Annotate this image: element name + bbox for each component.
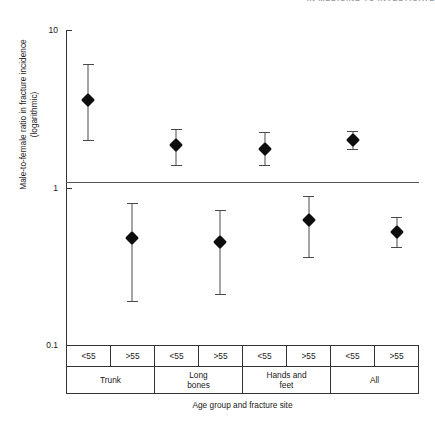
error-bar-line — [220, 210, 221, 294]
category-age-row: <55>55 — [67, 346, 154, 367]
category-age-label: >55 — [375, 346, 418, 366]
error-bar-lower-cap — [391, 247, 402, 248]
category-group: <55>55Longbones — [155, 346, 243, 393]
category-group: <55>55All — [331, 346, 418, 393]
category-age-label: >55 — [111, 346, 154, 366]
category-axis-table: <55>55Trunk<55>55Longbones<55>55Hands an… — [66, 345, 419, 394]
category-age-label: <55 — [243, 346, 287, 366]
error-bar-lower-cap — [127, 301, 138, 302]
running-head-text: IN MEDICINE TO INVESTIGATE — [252, 0, 435, 3]
category-age-label: <55 — [331, 346, 375, 366]
x-axis-title: Age group and fracture site — [66, 400, 419, 410]
category-group-label: All — [331, 367, 418, 393]
error-bar-upper-cap — [171, 129, 182, 130]
plot-area — [66, 30, 419, 345]
category-age-label: >55 — [199, 346, 242, 366]
diamond-marker — [346, 133, 360, 147]
y-axis-title-line2: (logarithmic) — [28, 92, 38, 138]
category-age-row: <55>55 — [243, 346, 330, 367]
error-bar-upper-cap — [215, 210, 226, 211]
category-group-label: Hands andfeet — [243, 367, 330, 393]
category-age-label: >55 — [287, 346, 330, 366]
error-bar-upper-cap — [259, 132, 270, 133]
error-bar-lower-cap — [83, 140, 94, 141]
diamond-marker — [81, 93, 95, 107]
y-tick-label: 0.1 — [18, 341, 66, 350]
y-axis-title: Male-to-female ratio in fracture inciden… — [18, 25, 39, 205]
forest-plot-figure: IN MEDICINE TO INVESTIGATE 1010.1 Male-t… — [0, 0, 435, 423]
diamond-marker — [302, 213, 316, 227]
diamond-marker — [213, 235, 227, 249]
error-bar-upper-cap — [127, 203, 138, 204]
category-group: <55>55Hands andfeet — [243, 346, 331, 393]
error-bar-lower-cap — [215, 294, 226, 295]
diamond-marker — [257, 142, 271, 156]
category-age-row: <55>55 — [331, 346, 418, 367]
y-tick-label-wrap: 0.1 — [0, 341, 66, 342]
category-age-label: <55 — [67, 346, 111, 366]
category-age-label: <55 — [155, 346, 199, 366]
category-group: <55>55Trunk — [67, 346, 155, 393]
error-bar-upper-cap — [83, 64, 94, 65]
error-bar-lower-cap — [347, 149, 358, 150]
error-bar-lower-cap — [259, 165, 270, 166]
error-bar-line — [132, 203, 133, 301]
diamond-marker — [390, 225, 404, 239]
error-bar-lower-cap — [171, 165, 182, 166]
diamond-marker — [169, 138, 183, 152]
diamond-marker — [125, 231, 139, 245]
y-axis-title-line1: Male-to-female ratio in fracture inciden… — [18, 39, 28, 189]
error-bar-lower-cap — [303, 257, 314, 258]
category-age-row: <55>55 — [155, 346, 242, 367]
error-bar-upper-cap — [303, 196, 314, 197]
error-bar-upper-cap — [391, 217, 402, 218]
error-bar-upper-cap — [347, 131, 358, 132]
category-group-label: Longbones — [155, 367, 242, 393]
category-group-label: Trunk — [67, 367, 154, 393]
